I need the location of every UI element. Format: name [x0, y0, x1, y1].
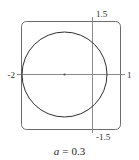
caption-variable: a: [54, 145, 60, 157]
caption-relation: =: [62, 145, 68, 157]
plot-svg: 1.5 -1.5 -2 1 a=0.3: [0, 0, 139, 160]
figure-container: 1.5 -1.5 -2 1 a=0.3: [0, 0, 139, 160]
x-axis-max-label: 1: [127, 70, 132, 80]
figure-caption: a=0.3: [54, 145, 86, 157]
x-axis-min-label: -2: [8, 70, 16, 80]
caption-value: 0.3: [71, 145, 85, 157]
center-point-marker: [63, 73, 65, 75]
y-axis-max-label: 1.5: [96, 9, 108, 19]
plot-frame: [22, 22, 121, 130]
y-axis-min-label: -1.5: [96, 132, 111, 142]
